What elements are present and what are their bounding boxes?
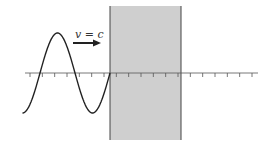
axis-ticks [30,73,252,77]
wave-diagram: v = c [0,0,274,147]
velocity-label: v = c [75,28,104,41]
